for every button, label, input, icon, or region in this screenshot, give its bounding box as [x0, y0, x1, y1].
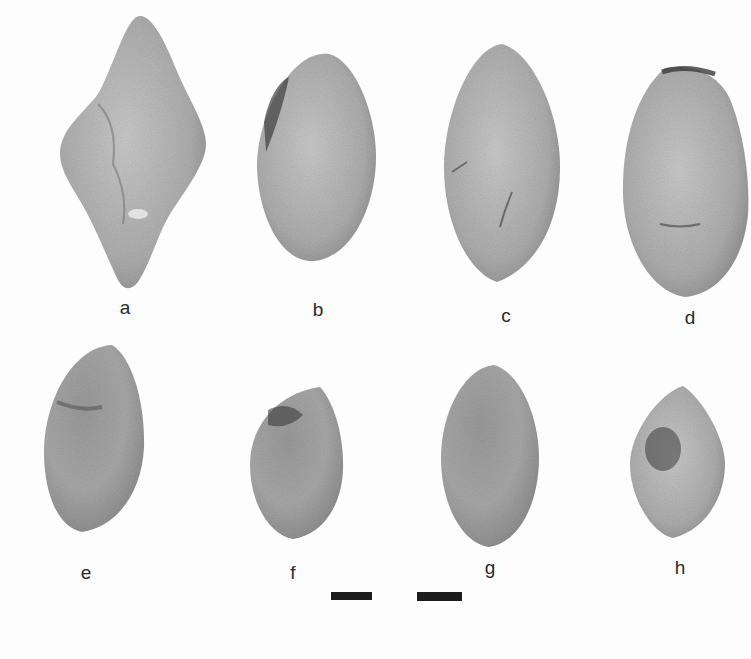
scale-bar-1: [331, 592, 372, 600]
specimen-g-sling-bullet: [439, 363, 541, 549]
sling-bullet-g-image: [439, 363, 541, 549]
label-c: c: [501, 306, 511, 325]
specimen-plate: a b c d e f g h: [0, 0, 751, 659]
label-a: a: [120, 298, 131, 317]
label-d: d: [685, 308, 696, 327]
specimen-f-sling-bullet: [248, 385, 346, 541]
label-b: b: [313, 300, 324, 319]
sling-bullet-h-image: [628, 384, 727, 540]
scale-bar-2: [417, 592, 462, 601]
specimen-d-sling-bullet: [620, 64, 751, 299]
sling-bullet-d-image: [620, 64, 751, 299]
sling-bullet-c-image: [442, 42, 562, 284]
label-f: f: [290, 563, 295, 582]
sling-bullet-b-image: [254, 52, 378, 263]
sling-bullet-a-image: [58, 14, 208, 292]
specimen-b-sling-bullet: [254, 52, 378, 263]
specimen-c-sling-bullet: [442, 42, 562, 284]
label-h: h: [675, 558, 686, 577]
specimen-e-sling-bullet: [42, 342, 147, 534]
specimen-a-sling-bullet: [58, 14, 208, 292]
specimen-h-sling-bullet: [628, 384, 727, 540]
label-g: g: [485, 558, 496, 577]
sling-bullet-e-image: [42, 342, 147, 534]
sling-bullet-f-image: [248, 385, 346, 541]
label-e: e: [81, 563, 92, 582]
